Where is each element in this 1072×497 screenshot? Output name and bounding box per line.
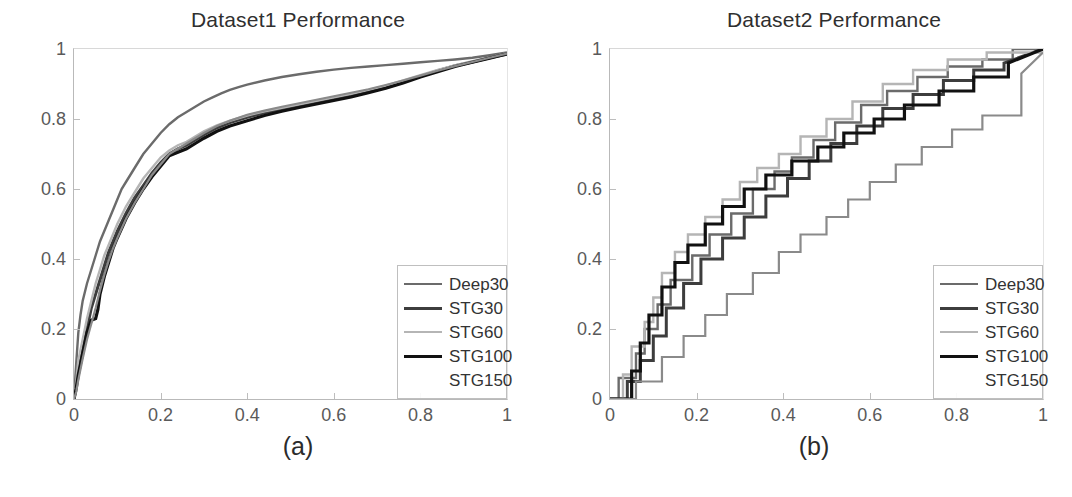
panel-caption-b: (b) — [536, 432, 1072, 461]
y-axis-tick-label: 1 — [592, 39, 602, 60]
chart-title-a: Dataset1 Performance — [0, 8, 566, 32]
y-axis-tick-mark — [610, 189, 616, 190]
legend-item-label: STG100 — [985, 348, 1048, 365]
legend-line-swatch — [940, 307, 978, 310]
y-axis-tick-label: 0.8 — [577, 109, 602, 130]
legend-line-swatch — [404, 307, 442, 310]
legend-item-label: STG150 — [449, 372, 512, 389]
y-axis-tick-label: 0.8 — [41, 109, 66, 130]
chart-panel-b: Dataset2 Performance 00.20.40.60.8100.20… — [536, 0, 1072, 497]
x-axis-tick-label: 0.4 — [771, 405, 796, 426]
legend-item[interactable]: STG60 — [940, 320, 1034, 344]
chart-panel-a: Dataset1 Performance 00.20.40.60.8100.20… — [0, 0, 536, 497]
y-axis-tick-label: 0.4 — [41, 249, 66, 270]
x-axis-tick-mark — [334, 393, 335, 399]
legend-item[interactable]: STG30 — [404, 296, 498, 320]
plot-area-a: 00.20.40.60.8100.20.40.60.81Deep30STG30S… — [73, 48, 508, 400]
legend-item[interactable]: STG150 — [404, 368, 498, 392]
legend-line-swatch — [940, 355, 978, 358]
x-axis-tick-mark — [247, 393, 248, 399]
y-axis-tick-label: 0.6 — [41, 179, 66, 200]
legend-item-label: STG30 — [449, 300, 503, 317]
x-axis-tick-label: 0 — [605, 405, 615, 426]
figure-container: Dataset1 Performance 00.20.40.60.8100.20… — [0, 0, 1072, 497]
chart-title-b: Dataset2 Performance — [536, 8, 1072, 32]
x-axis-tick-label: 0.8 — [408, 405, 433, 426]
legend-item[interactable]: Deep30 — [404, 272, 498, 296]
y-axis-tick-mark — [74, 259, 80, 260]
legend-item[interactable]: STG100 — [940, 344, 1034, 368]
y-axis-tick-label: 1 — [56, 39, 66, 60]
plot-area-b: 00.20.40.60.8100.20.40.60.81Deep30STG30S… — [609, 48, 1044, 400]
legend-line-swatch — [404, 331, 442, 333]
legend-item[interactable]: STG60 — [404, 320, 498, 344]
legend-item-label: STG30 — [985, 300, 1039, 317]
y-axis-tick-label: 0.2 — [41, 319, 66, 340]
x-axis-tick-label: 0.8 — [944, 405, 969, 426]
legend-item[interactable]: STG150 — [940, 368, 1034, 392]
y-axis-tick-label: 0.2 — [577, 319, 602, 340]
y-axis-tick-label: 0 — [592, 389, 602, 410]
legend-item-label: STG60 — [985, 324, 1039, 341]
y-axis-tick-mark — [74, 119, 80, 120]
legend-item-label: STG100 — [449, 348, 512, 365]
legend-item-label: Deep30 — [449, 276, 509, 293]
legend-item-label: Deep30 — [985, 276, 1045, 293]
x-axis-tick-label: 0 — [69, 405, 79, 426]
x-axis-tick-mark — [870, 393, 871, 399]
chart-legend[interactable]: Deep30STG30STG60STG100STG150 — [933, 265, 1043, 399]
x-axis-tick-mark — [783, 393, 784, 399]
y-axis-tick-mark — [610, 329, 616, 330]
y-axis-tick-label: 0.6 — [577, 179, 602, 200]
legend-item[interactable]: Deep30 — [940, 272, 1034, 296]
x-axis-tick-label: 1 — [502, 405, 512, 426]
x-axis-tick-label: 0.6 — [321, 405, 346, 426]
legend-item-label: STG60 — [449, 324, 503, 341]
legend-line-swatch — [940, 283, 978, 285]
y-axis-tick-mark — [74, 189, 80, 190]
y-axis-tick-label: 0.4 — [577, 249, 602, 270]
legend-line-swatch — [404, 355, 442, 358]
x-axis-tick-label: 0.4 — [235, 405, 260, 426]
y-axis-tick-mark — [74, 329, 80, 330]
y-axis-tick-mark — [610, 119, 616, 120]
legend-item[interactable]: STG100 — [404, 344, 498, 368]
x-axis-tick-label: 0.2 — [148, 405, 173, 426]
legend-item[interactable]: STG30 — [940, 296, 1034, 320]
y-axis-tick-label: 0 — [56, 389, 66, 410]
y-axis-tick-mark — [610, 259, 616, 260]
legend-item-label: STG150 — [985, 372, 1048, 389]
x-axis-tick-label: 1 — [1038, 405, 1048, 426]
legend-line-swatch — [404, 283, 442, 285]
x-axis-tick-mark — [697, 393, 698, 399]
chart-legend[interactable]: Deep30STG30STG60STG100STG150 — [397, 265, 507, 399]
panel-caption-a: (a) — [0, 432, 566, 461]
legend-line-swatch — [940, 331, 978, 333]
x-axis-tick-mark — [161, 393, 162, 399]
x-axis-tick-label: 0.2 — [684, 405, 709, 426]
x-axis-tick-label: 0.6 — [857, 405, 882, 426]
